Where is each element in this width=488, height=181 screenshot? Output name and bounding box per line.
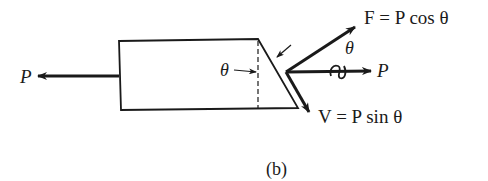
theta-inner-pointer-arrow [234,70,256,72]
label-v-equation: V = P sin θ [318,107,402,126]
free-body-diagram: P θ θ P F = P cos θ V = P sin θ (b) [0,0,488,181]
bar-body [119,39,298,110]
label-theta-outer: θ [345,39,354,57]
label-theta-inner: θ [220,61,229,79]
label-f-equation: F = P cos θ [364,8,449,27]
figure-caption: (b) [266,160,287,178]
force-arrow-p-right [286,71,371,72]
label-p-left: P [20,67,32,86]
normal-indicator-arrow [277,45,291,57]
label-p-right: P [377,61,389,80]
